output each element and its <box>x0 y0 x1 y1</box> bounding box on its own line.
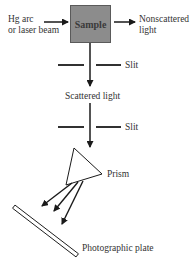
source-label: Hg arc or laser beam <box>8 14 59 36</box>
sample-label: Sample <box>75 19 107 30</box>
prism-label: Prism <box>107 169 129 180</box>
nonscattered-label: Nonscattered light <box>139 14 189 36</box>
source-label-line1: Hg arc <box>8 14 59 25</box>
prism-shape <box>66 148 102 185</box>
slit1-label: Slit <box>125 60 138 71</box>
nonscattered-label-line1: Nonscattered <box>139 14 189 25</box>
sample-box: Sample <box>70 5 111 43</box>
photographic-plate-label: Photographic plate <box>82 243 154 254</box>
dispersed-ray-2 <box>54 182 78 211</box>
source-label-line2: or laser beam <box>8 25 59 36</box>
scattered-light-label: Scattered light <box>65 91 120 102</box>
nonscattered-label-line2: light <box>139 25 189 36</box>
photographic-plate <box>13 205 79 257</box>
slit2-label: Slit <box>125 122 138 133</box>
